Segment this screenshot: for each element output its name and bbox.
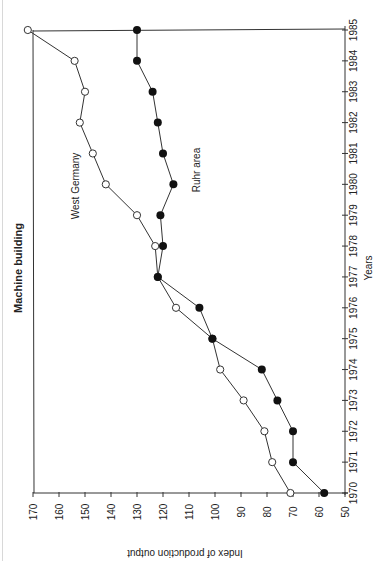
index-tick-label: 140 [106,503,117,520]
index-tick-label: 70 [288,506,299,518]
year-tick-label: 1970 [348,481,359,504]
year-tick-label: 1978 [348,235,359,258]
filled-circle-marker [133,57,141,65]
year-tick-label: 1971 [348,451,359,474]
open-circle-marker [102,181,109,188]
machine-building-chart: 1970197119721973197419751976197719781979… [0,0,379,561]
open-circle-marker [172,304,179,311]
series-line [28,30,291,493]
open-circle-marker [81,88,88,95]
filled-circle-marker [320,489,328,497]
filled-circle-marker [289,458,297,466]
filled-circle-marker [154,119,162,127]
filled-circle-marker [159,149,167,157]
year-tick-label: 1977 [348,265,359,288]
index-tick-label: 120 [158,503,169,520]
year-tick-label: 1975 [348,327,359,350]
chart-title: Machine building [12,223,24,313]
index-tick-label: 90 [236,506,247,518]
frame-left-line [33,30,34,493]
open-circle-marker [261,428,268,435]
series-line [137,30,324,493]
filled-circle-marker [289,427,297,435]
filled-circle-marker [258,366,266,374]
index-tick-label: 170 [28,503,39,520]
year-tick-label: 1982 [348,111,359,134]
filled-circle-marker [133,26,141,34]
frame-top-line [33,29,345,31]
open-circle-marker [133,212,140,219]
year-tick-label: 1981 [348,142,359,165]
x-axis-label: Years [363,255,374,280]
year-tick-label: 1980 [348,173,359,196]
open-circle-marker [89,150,96,157]
index-tick-label: 80 [262,506,273,518]
open-circle-marker [71,57,78,64]
open-circle-marker [287,489,294,496]
series-label-west-germany: West Germany [70,153,81,220]
series-label-ruhr-area: Ruhr area [191,147,202,192]
year-tick-label: 1974 [348,358,359,381]
filled-circle-marker [169,180,177,188]
y-axis-label: Index of production output [127,548,243,559]
open-circle-marker [76,119,83,126]
series-west-germany [24,26,294,496]
year-tick-label: 1979 [348,204,359,227]
index-tick-label: 50 [340,506,351,518]
index-tick-label: 100 [210,503,221,520]
filled-circle-marker [195,304,203,312]
year-tick-label: 1983 [348,80,359,103]
index-axis: 5060708090100110120130140150160170 [28,492,351,520]
series-ruhr-area [133,26,328,497]
year-tick-label: 1985 [348,18,359,41]
index-tick-label: 150 [80,503,91,520]
year-tick-label: 1984 [348,49,359,72]
index-tick-label: 110 [184,504,195,520]
index-tick-label: 130 [132,503,143,520]
filled-circle-marker [208,335,216,343]
filled-circle-marker [156,211,164,219]
series-layer [24,26,328,497]
year-tick-label: 1976 [348,296,359,319]
chart-frame [33,29,345,493]
year-axis: 1970197119721973197419751976197719781979… [342,18,359,504]
open-circle-marker [24,26,31,33]
filled-circle-marker [159,242,167,250]
filled-circle-marker [154,273,162,281]
year-tick-label: 1973 [348,389,359,412]
open-circle-marker [152,242,159,249]
year-tick-label: 1972 [348,420,359,443]
filled-circle-marker [149,88,157,96]
filled-circle-marker [273,396,281,404]
index-tick-label: 60 [314,506,325,518]
open-circle-marker [240,397,247,404]
index-tick-label: 160 [54,503,65,520]
open-circle-marker [217,366,224,373]
open-circle-marker [269,459,276,466]
